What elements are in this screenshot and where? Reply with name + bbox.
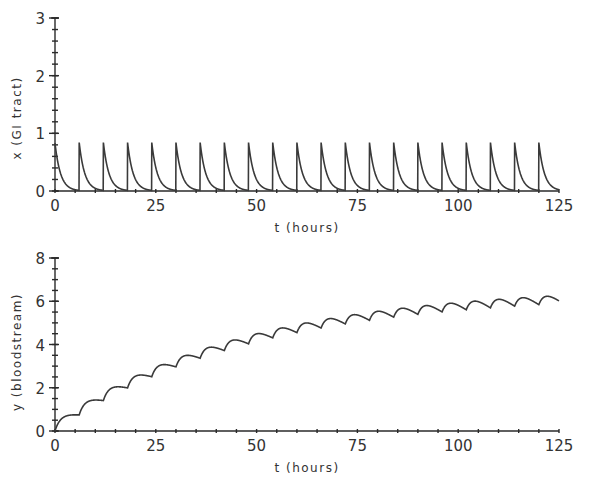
gi-tract-y-tick-label: 3: [35, 10, 45, 28]
gi-tract-curve: [55, 143, 559, 191]
gi-tract-y-tick-label: 2: [35, 68, 45, 86]
bloodstream-y-tick-label: 2: [35, 380, 45, 398]
bloodstream-chart: 024680255075100125t (hours)y (bloodstrea…: [0, 242, 592, 484]
bloodstream-x-tick-label: 50: [247, 437, 266, 455]
bloodstream-x-tick-label: 100: [444, 437, 473, 455]
bloodstream-x-tick-label: 125: [545, 437, 574, 455]
gi-tract-axes: 01230255075100125t (hours)x (GI tract): [10, 10, 573, 235]
gi-tract-x-tick-label: 125: [545, 197, 574, 215]
gi-tract-y-tick-label: 1: [35, 125, 45, 143]
bloodstream-x-tick-label: 75: [348, 437, 367, 455]
bloodstream-x-tick-label: 0: [50, 437, 60, 455]
gi-tract-x-tick-label: 0: [50, 197, 60, 215]
bloodstream-y-tick-label: 0: [35, 423, 45, 441]
bloodstream-y-tick-label: 4: [35, 337, 45, 355]
bloodstream-y-axis-title: y (bloodstream): [10, 293, 24, 411]
gi-tract-x-tick-label: 50: [247, 197, 266, 215]
bloodstream-x-tick-label: 25: [146, 437, 165, 455]
bloodstream-x-axis-title: t (hours): [274, 461, 339, 475]
bloodstream-curve: [55, 296, 559, 431]
bloodstream-plot: 024680255075100125t (hours)y (bloodstrea…: [0, 242, 592, 484]
bloodstream-y-tick-label: 8: [35, 250, 45, 268]
gi-tract-plot: 01230255075100125t (hours)x (GI tract): [0, 0, 592, 242]
gi-tract-x-tick-label: 75: [348, 197, 367, 215]
bloodstream-y-tick-label: 6: [35, 293, 45, 311]
gi-tract-y-axis-title: x (GI tract): [10, 76, 24, 159]
gi-tract-x-tick-label: 100: [444, 197, 473, 215]
gi-tract-chart: 01230255075100125t (hours)x (GI tract) t…: [0, 0, 592, 242]
gi-tract-y-tick-label: 0: [35, 183, 45, 201]
gi-tract-x-axis-title: t (hours): [274, 221, 339, 235]
gi-tract-x-tick-label: 25: [146, 197, 165, 215]
bloodstream-axes: 024680255075100125t (hours)y (bloodstrea…: [10, 250, 573, 475]
